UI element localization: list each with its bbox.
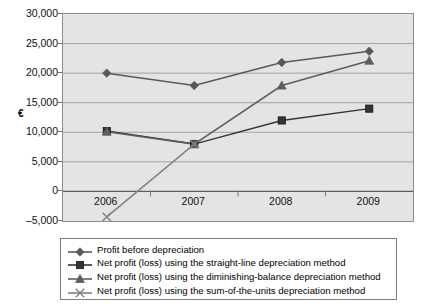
plot-area <box>62 13 414 222</box>
legend-item-label: Profit before depreciation <box>97 244 204 256</box>
y-axis-tick-label: 20,000 <box>4 66 58 78</box>
y-axis-tick-label: 30,000 <box>4 7 58 19</box>
gridlines <box>63 44 413 192</box>
y-axis-tick-label: 25,000 <box>4 37 58 49</box>
y-axis-tick-labels: 30,00025,00020,00015,00010,0005,0000–5,0… <box>0 0 58 307</box>
line-chart-figure: € 30,00025,00020,00015,00010,0005,0000–5… <box>0 0 421 307</box>
legend-item-label: Net profit (loss) using the straight-lin… <box>97 257 346 269</box>
legend-marker-diamond-icon <box>67 244 93 256</box>
legend-item-label: Net profit (loss) using the sum-of-the-u… <box>97 285 365 297</box>
y-axis-tick-label: 5,000 <box>4 155 58 167</box>
legend-item-label: Net profit (loss) using the diminishing-… <box>97 271 381 283</box>
legend-item[interactable]: Net profit (loss) using the straight-lin… <box>67 257 346 270</box>
y-axis-tick-label: 0 <box>4 184 58 196</box>
legend-marker-triangle-icon <box>67 271 93 283</box>
x-axis-tick-label: 2006 <box>94 195 117 207</box>
y-axis-tick-label: 15,000 <box>4 96 58 108</box>
legend-item[interactable]: Net profit (loss) using the diminishing-… <box>67 271 381 284</box>
x-axis-tick-marks <box>151 191 326 196</box>
legend-item[interactable]: Net profit (loss) using the sum-of-the-u… <box>67 284 365 297</box>
plot-svg <box>63 14 413 221</box>
x-axis-tick-label: 2008 <box>269 195 292 207</box>
legend-item[interactable]: Profit before depreciation <box>67 243 204 256</box>
x-axis-tick-label: 2009 <box>357 195 380 207</box>
legend: Profit before depreciationNet profit (lo… <box>60 238 397 300</box>
y-axis-tick-label: 10,000 <box>4 125 58 137</box>
legend-marker-square-icon <box>67 257 93 269</box>
legend-marker-cross-icon <box>67 285 93 297</box>
x-axis-tick-label: 2007 <box>182 195 205 207</box>
y-axis-tick-label: –5,000 <box>4 214 58 226</box>
